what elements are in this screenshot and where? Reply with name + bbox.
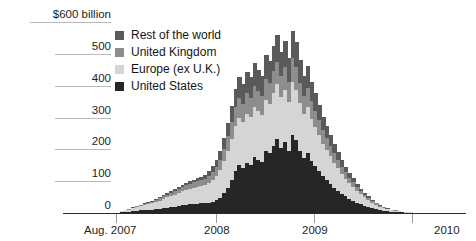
legend-swatch-icon	[115, 31, 124, 40]
x-axis-tick-mark	[412, 214, 413, 223]
y-gridline	[55, 54, 111, 55]
x-axis-tick-label: Aug. 2007	[84, 224, 136, 237]
legend-item-label: United States	[131, 80, 203, 93]
x-axis-tick-mark	[314, 214, 315, 223]
y-gridline	[30, 22, 111, 23]
y-axis-tick-label: 300	[92, 104, 111, 116]
y-axis-tick-label: 400	[92, 72, 111, 84]
stack-segment	[336, 152, 341, 160]
x-axis-line	[63, 213, 466, 214]
chart-legend: Rest of the world United Kingdom Europe …	[115, 27, 221, 95]
legend-swatch-icon	[115, 48, 124, 57]
legend-swatch-icon	[115, 65, 124, 74]
x-axis-tick-mark	[216, 214, 217, 223]
legend-item[interactable]: Europe (ex U.K.)	[115, 61, 221, 77]
legend-item-label: United Kingdom	[131, 46, 216, 59]
legend-item-label: Rest of the world	[131, 29, 221, 42]
legend-swatch-icon	[115, 82, 124, 91]
y-axis-tick-label: 200	[92, 135, 111, 147]
x-axis-tick-label: 2009	[302, 224, 328, 237]
y-axis-tick-label: 0	[105, 199, 111, 211]
chart-figure: $600 billion5004003002001000 Aug. 200720…	[0, 0, 476, 241]
y-axis-tick-label: 500	[92, 40, 111, 52]
y-gridline	[55, 149, 111, 150]
legend-item[interactable]: United States	[115, 78, 221, 94]
y-gridline	[55, 118, 111, 119]
y-axis-tick-label: 100	[92, 167, 111, 179]
y-gridline	[55, 181, 111, 182]
x-axis-tick-mark	[116, 214, 117, 223]
x-axis-tick-label: 2008	[204, 224, 230, 237]
y-gridline	[55, 86, 111, 87]
x-axis-tick-label: 2010	[434, 224, 460, 237]
legend-item-label: Europe (ex U.K.)	[131, 63, 220, 76]
y-axis-tick-label: $600 billion	[53, 8, 111, 20]
legend-item[interactable]: Rest of the world	[115, 27, 221, 43]
legend-item[interactable]: United Kingdom	[115, 44, 221, 60]
